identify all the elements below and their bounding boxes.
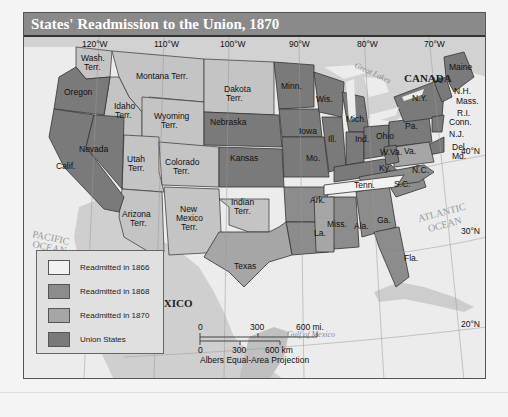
label-wash-2: Terr. [84, 62, 101, 72]
label-nh: N.H. [454, 86, 471, 96]
label-vt: Vt. [433, 75, 443, 85]
label-miss: Miss. [327, 219, 347, 229]
label-arizona-2: Terr. [130, 218, 147, 228]
legend-item-union: Union States [48, 331, 126, 348]
legend-item-1866: Readmitted in 1866 [48, 259, 149, 276]
map-title: States' Readmission to the Union, 1870 [31, 16, 279, 33]
label-ky: Ky. [379, 163, 391, 173]
label-mass: Mass. [456, 96, 479, 106]
label-nj: N.J. [449, 129, 464, 139]
lon-70: 70°W [424, 39, 445, 49]
label-new-mexico-3: Terr. [181, 222, 198, 232]
lon-100: 100°W [220, 39, 246, 49]
bottom-divider [0, 392, 508, 393]
label-iowa: Iowa [299, 126, 317, 136]
label-maine: Maine [449, 62, 472, 72]
label-ind: Ind. [355, 134, 369, 144]
label-conn: Conn. [449, 117, 472, 127]
label-ga: Ga. [377, 215, 391, 225]
label-minn: Minn. [281, 81, 302, 91]
label-ark: Ark. [310, 195, 325, 205]
label-la: La. [314, 228, 326, 238]
lon-90: 90°W [289, 39, 310, 49]
label-va: Va. [404, 146, 416, 156]
label-ala: Ala. [354, 221, 369, 231]
label-montana: Montana Terr. [136, 71, 188, 81]
label-indian-2: Terr. [234, 206, 251, 216]
legend: Readmitted in 1866 Readmitted in 1868 Re… [36, 250, 164, 354]
canada-label: CANADA [404, 72, 452, 84]
label-nebraska: Nebraska [210, 117, 247, 127]
label-utah-2: Terr. [128, 163, 145, 173]
label-texas: Texas [234, 261, 256, 271]
label-md: Md. [452, 151, 466, 161]
projection-label: Albers Equal-Area Projection [200, 355, 309, 365]
lat-20: 20°N [461, 319, 480, 329]
label-fla: Fla. [404, 253, 418, 263]
label-tenn: Tenn. [354, 180, 375, 190]
map-frame: States' Readmission to the Union, 1870 [23, 12, 486, 379]
lon-80: 80°W [357, 39, 378, 49]
label-dakota-2: Terr. [226, 93, 243, 103]
label-kansas: Kansas [230, 153, 258, 163]
label-wis: Wis. [316, 94, 333, 104]
label-ny: N.Y. [412, 93, 427, 103]
label-wva: W.Va. [380, 147, 402, 157]
label-nevada: Nevada [79, 144, 109, 154]
label-sc: S.C. [394, 179, 411, 189]
scale-km-600: 600 km [265, 345, 293, 355]
label-oregon: Oregon [64, 87, 93, 97]
swatch-1866 [48, 260, 70, 275]
scale-km-0: 0 [198, 345, 203, 355]
label-idaho-2: Terr. [115, 110, 132, 120]
legend-label-union: Union States [80, 335, 126, 344]
swatch-1870 [48, 308, 70, 323]
legend-label-1868: Readmitted in 1868 [80, 287, 149, 296]
legend-label-1870: Readmitted in 1870 [80, 311, 149, 320]
scale-km-300: 300 [232, 345, 246, 355]
label-calif: Calif. [56, 161, 75, 171]
lon-120: 120°W [82, 39, 108, 49]
label-colorado-2: Terr. [173, 166, 190, 176]
lon-110: 110°W [154, 39, 179, 49]
title-bar: States' Readmission to the Union, 1870 [24, 13, 485, 37]
lat-30: 30°N [461, 226, 480, 236]
label-ohio: Ohio [376, 131, 394, 141]
legend-item-1870: Readmitted in 1870 [48, 307, 149, 324]
scale-mi-300: 300 [250, 322, 264, 332]
label-ill: Ill. [328, 134, 337, 144]
label-mo: Mo. [306, 153, 320, 163]
scale-mi-0: 0 [198, 322, 203, 332]
label-wyoming-2: Terr. [161, 120, 178, 130]
label-mich: Mich. [346, 114, 366, 124]
label-pa: Pa. [405, 121, 418, 131]
scale-mi-600: 600 mi. [296, 322, 324, 332]
legend-label-1866: Readmitted in 1866 [80, 263, 149, 272]
legend-item-1868: Readmitted in 1868 [48, 283, 149, 300]
swatch-union [48, 332, 70, 347]
swatch-1868 [48, 284, 70, 299]
label-nc: N.C. [412, 165, 429, 175]
